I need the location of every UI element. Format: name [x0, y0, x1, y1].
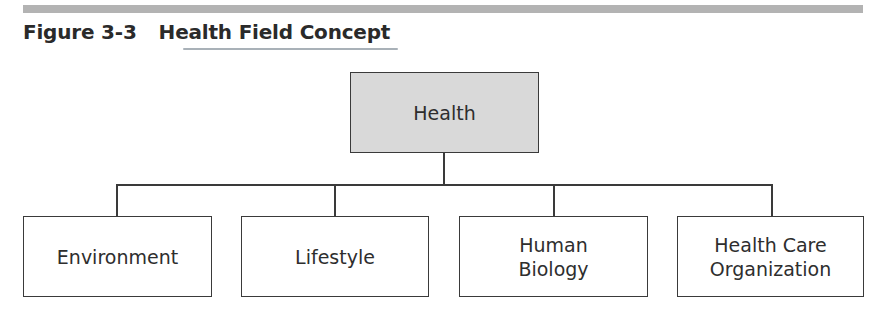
node-human-biology: Human Biology: [459, 216, 648, 297]
node-health: Health: [350, 72, 539, 153]
node-label: Environment: [57, 245, 178, 269]
top-rule: [23, 5, 863, 13]
node-lifestyle: Lifestyle: [241, 216, 429, 297]
connector-human-biology: [553, 184, 555, 217]
connector-root-vertical: [443, 152, 445, 185]
node-label: Lifestyle: [295, 245, 375, 269]
node-label: Health: [413, 101, 475, 125]
node-label-line-2: Organization: [710, 257, 831, 281]
connector-environment: [116, 184, 118, 217]
connector-horizontal: [116, 184, 772, 186]
node-label-line-1: Health Care: [714, 233, 826, 257]
connector-lifestyle: [334, 184, 336, 217]
figure-caption: Figure 3-3Health Field Concept: [23, 20, 390, 44]
node-health-care-organization: Health Care Organization: [677, 216, 864, 297]
node-label-line-1: Human: [519, 233, 588, 257]
node-environment: Environment: [23, 216, 212, 297]
figure-number: Figure 3-3: [23, 20, 137, 44]
node-label-line-2: Biology: [518, 257, 588, 281]
connector-health-care: [771, 184, 773, 217]
title-underline: [183, 48, 398, 50]
figure-title: Health Field Concept: [159, 20, 391, 44]
